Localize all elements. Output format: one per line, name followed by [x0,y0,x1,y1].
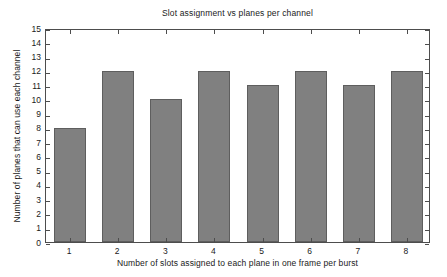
y-tick-mark-right [425,44,429,45]
y-tick-mark-right [425,201,429,202]
y-tick-label: 0 [11,239,41,248]
y-tick-mark [46,59,50,60]
x-tick-mark [311,238,312,242]
y-tick-mark [46,230,50,231]
y-tick-label: 5 [11,167,41,176]
x-tick-mark-top [359,30,360,34]
x-tick-mark [166,238,167,242]
x-tick-label: 4 [198,247,228,256]
y-tick-mark-right [425,187,429,188]
x-tick-label: 7 [343,247,373,256]
y-tick-label: 13 [11,53,41,62]
y-tick-mark [46,116,50,117]
y-tick-mark-right [425,230,429,231]
y-tick-mark [46,87,50,88]
x-tick-mark-top [407,30,408,34]
bar [391,71,423,242]
y-tick-mark [46,187,50,188]
y-tick-label: 8 [11,124,41,133]
x-tick-mark-top [214,30,215,34]
bar [343,85,375,242]
y-tick-mark-right [425,101,429,102]
y-tick-mark-right [425,144,429,145]
plot-inner [46,30,429,242]
y-tick-mark [46,73,50,74]
y-tick-mark-right [425,215,429,216]
x-tick-mark-top [311,30,312,34]
y-tick-mark [46,130,50,131]
y-tick-mark [46,144,50,145]
chart-figure: Slot assignment vs planes per channel Nu… [0,0,447,277]
y-tick-mark [46,244,50,245]
x-tick-mark [70,238,71,242]
y-tick-mark [46,173,50,174]
y-tick-mark-right [425,158,429,159]
y-tick-label: 9 [11,110,41,119]
x-tick-label: 6 [295,247,325,256]
y-tick-mark [46,44,50,45]
y-tick-label: 6 [11,153,41,162]
x-tick-label: 5 [247,247,277,256]
x-tick-label: 3 [150,247,180,256]
y-tick-mark-right [425,173,429,174]
y-tick-mark-right [425,73,429,74]
x-axis-title: Number of slots assigned to each plane i… [45,258,430,268]
y-tick-label: 3 [11,196,41,205]
bar [102,71,134,242]
chart-title: Slot assignment vs planes per channel [45,8,430,18]
y-tick-label: 2 [11,210,41,219]
x-tick-mark-top [263,30,264,34]
y-tick-mark-right [425,87,429,88]
y-tick-mark [46,101,50,102]
bar [247,85,279,242]
y-tick-mark-right [425,130,429,131]
x-tick-mark [359,238,360,242]
bar [54,128,86,242]
x-tick-mark [118,238,119,242]
y-tick-mark [46,215,50,216]
x-tick-label: 8 [391,247,421,256]
x-tick-mark-top [166,30,167,34]
x-tick-mark [214,238,215,242]
y-tick-mark [46,158,50,159]
x-tick-label: 1 [54,247,84,256]
bar [295,71,327,242]
y-tick-label: 14 [11,39,41,48]
y-tick-mark-right [425,244,429,245]
y-tick-label: 12 [11,67,41,76]
y-tick-mark [46,201,50,202]
y-tick-label: 10 [11,96,41,105]
x-tick-mark [263,238,264,242]
x-tick-mark-top [70,30,71,34]
x-tick-mark [407,238,408,242]
y-tick-label: 15 [11,25,41,34]
y-tick-label: 7 [11,139,41,148]
y-tick-label: 1 [11,224,41,233]
x-tick-label: 2 [102,247,132,256]
y-tick-mark [46,30,50,31]
y-tick-mark-right [425,30,429,31]
y-tick-mark-right [425,116,429,117]
y-tick-label: 4 [11,181,41,190]
x-tick-mark-top [118,30,119,34]
plot-area [45,29,430,243]
y-tick-mark-right [425,59,429,60]
y-tick-label: 11 [11,82,41,91]
bar [150,99,182,242]
bar [198,71,230,242]
